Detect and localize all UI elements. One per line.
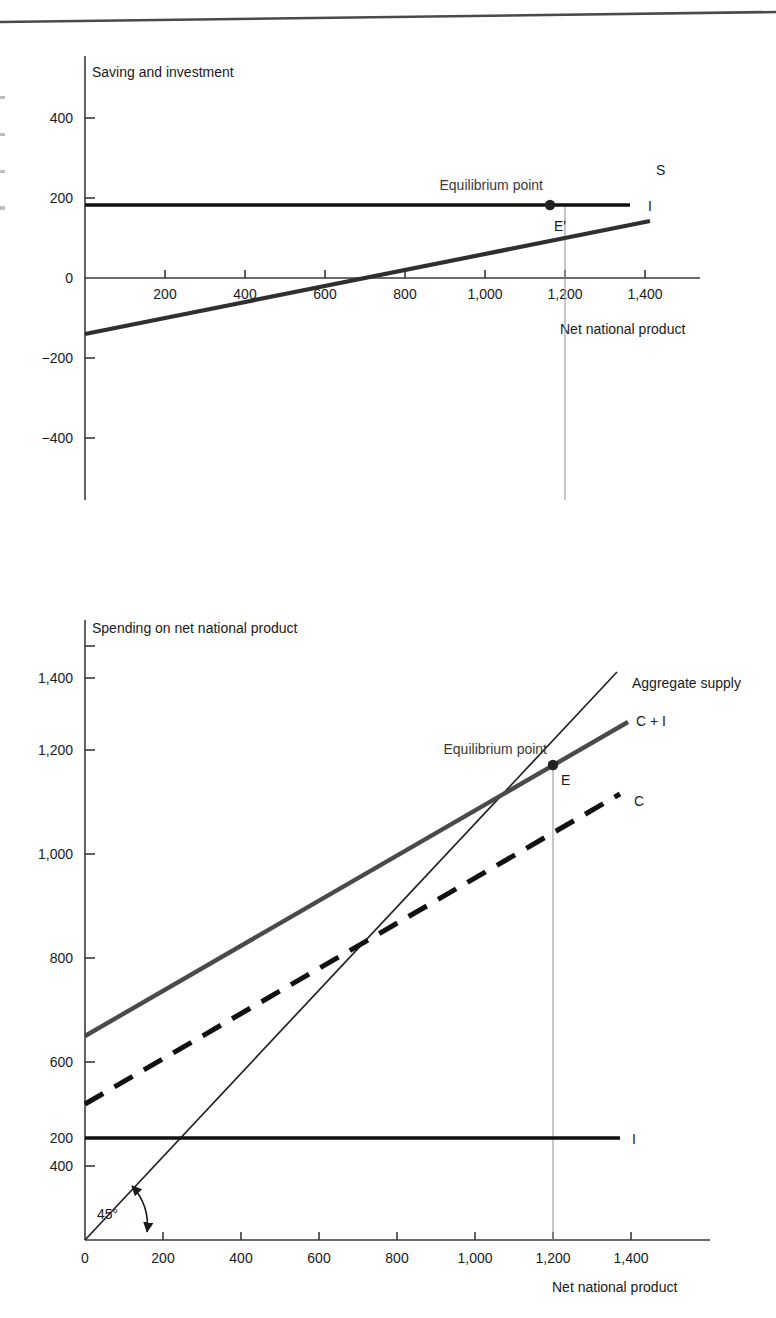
series-line-c <box>85 794 620 1104</box>
xtick-800: 800 <box>393 286 417 302</box>
y-axis-title: Saving and investment <box>92 64 234 80</box>
series-label-aggregate-supply: Aggregate supply <box>632 675 741 691</box>
chart-spending-nnp: 1,400 1,200 1,000 800 600 400 200 0 <box>38 620 741 1295</box>
xtick-1200: 1,200 <box>535 1250 570 1266</box>
ytick-1200: 1,200 <box>38 742 73 758</box>
figure-canvas: 400 200 0 −200 −400 200 400 600 800 1,00… <box>0 0 776 1318</box>
xtick-200: 200 <box>151 1250 175 1266</box>
y-axis-title: Spending on net national product <box>92 620 298 636</box>
xtick-1400: 1,400 <box>613 1250 648 1266</box>
economics-figure: 400 200 0 −200 −400 200 400 600 800 1,00… <box>0 0 776 1318</box>
ytick-200: 200 <box>50 190 74 206</box>
series-label-I: I <box>648 198 652 214</box>
ytick-200: 200 <box>50 1130 74 1146</box>
equilibrium-annotation-label: Equilibrium point <box>440 177 544 193</box>
xtick-0: 0 <box>81 1250 89 1266</box>
ytick-1000: 1,000 <box>38 846 73 862</box>
xtick-1400: 1,400 <box>627 286 662 302</box>
xtick-400: 400 <box>229 1250 253 1266</box>
xtick-800: 800 <box>385 1250 409 1266</box>
equilibrium-point-marker <box>548 760 558 770</box>
ytick-400: 400 <box>50 110 74 126</box>
series-line-c-plus-i <box>85 722 628 1036</box>
xtick-600: 600 <box>307 1250 331 1266</box>
xtick-1000: 1,000 <box>467 286 502 302</box>
ytick-400: 400 <box>50 1158 74 1174</box>
xtick-1000: 1,000 <box>457 1250 492 1266</box>
xtick-200: 200 <box>153 286 177 302</box>
chart-saving-investment: 400 200 0 −200 −400 200 400 600 800 1,00… <box>41 56 700 500</box>
series-line-aggregate-supply <box>85 672 617 1240</box>
angle-annotation-label: 45° <box>97 1206 118 1222</box>
equilibrium-point-id: E′ <box>554 218 566 234</box>
x-axis-title: Net national product <box>552 1279 677 1295</box>
ytick-neg200: −200 <box>41 350 73 366</box>
equilibrium-point-marker <box>545 200 555 210</box>
x-ticks <box>163 1232 631 1240</box>
x-axis-title: Net national product <box>560 321 685 337</box>
page-edge-marks <box>0 96 5 210</box>
ytick-800: 800 <box>50 950 74 966</box>
page-rule <box>0 12 776 22</box>
ytick-600: 600 <box>50 1054 74 1070</box>
series-label-c-plus-i: C + I <box>636 713 666 729</box>
ytick-neg400: −400 <box>41 430 73 446</box>
equilibrium-annotation-label: Equilibrium point <box>444 741 548 757</box>
ytick-0: 0 <box>65 270 73 286</box>
y-ticks <box>85 646 95 1166</box>
series-label-S: S <box>656 162 665 178</box>
equilibrium-point-id: E <box>561 772 570 788</box>
ytick-1400: 1,400 <box>38 670 73 686</box>
angle-arc-arrow <box>132 1186 147 1232</box>
series-label-i: I <box>632 1131 636 1147</box>
series-label-c: C <box>634 793 644 809</box>
